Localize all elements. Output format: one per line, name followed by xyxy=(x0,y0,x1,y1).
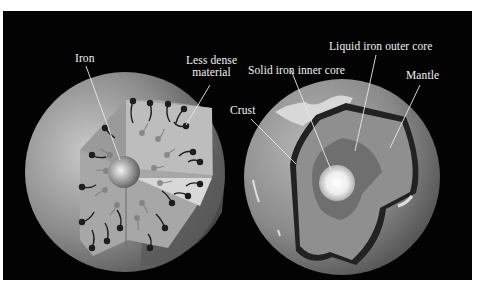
label-less-dense-line1: Less dense xyxy=(186,54,237,66)
label-less-dense-material: Less dense material xyxy=(186,54,237,78)
inner-core-glow xyxy=(319,165,355,201)
label-liquid-iron-outer-core: Liquid iron outer core xyxy=(329,40,432,52)
iron-core-ball xyxy=(108,156,140,188)
label-less-dense-line2: material xyxy=(186,66,237,78)
label-iron: Iron xyxy=(75,52,95,64)
undifferentiated-earth-sphere xyxy=(25,72,225,272)
differentiated-earth-sphere xyxy=(244,79,440,275)
label-mantle: Mantle xyxy=(406,69,439,81)
label-crust: Crust xyxy=(230,104,255,116)
label-solid-iron-inner-core: Solid iron inner core xyxy=(248,64,345,76)
